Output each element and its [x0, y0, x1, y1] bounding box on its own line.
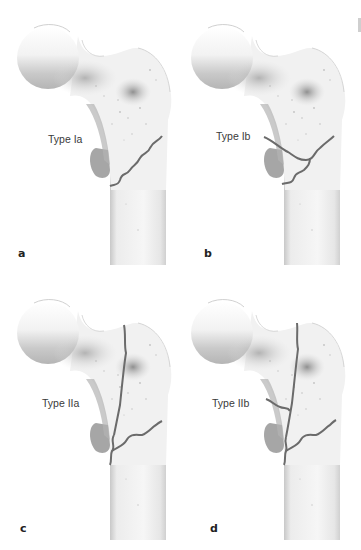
panel-c: Type IIa c [0, 275, 180, 550]
femur-illustration [180, 275, 360, 550]
panel-a: Type Ia a [0, 0, 180, 275]
type-label: Type Ib [216, 130, 250, 142]
panel-d: Type IIb d [180, 275, 360, 550]
type-label: Type Ia [48, 133, 82, 145]
panel-letter: d [210, 522, 218, 535]
panel-letter: a [18, 247, 25, 260]
femur-illustration [180, 0, 360, 275]
panel-letter: c [20, 522, 27, 535]
type-label: Type IIb [212, 397, 249, 409]
femur-illustration [0, 0, 180, 275]
panel-letter: b [204, 247, 212, 260]
femur-illustration [0, 275, 180, 550]
type-label: Type IIa [42, 397, 79, 409]
panel-b: Type Ib b [180, 0, 360, 275]
